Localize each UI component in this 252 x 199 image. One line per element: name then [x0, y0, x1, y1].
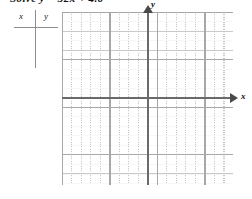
problem-statement: Solve y = 32x + 4.6 [10, 0, 190, 4]
table-column-divider [35, 10, 36, 68]
x-axis-arrow-icon [230, 93, 238, 103]
table-header-row: x y [14, 10, 58, 26]
coordinate-plane[interactable]: x y [62, 12, 233, 185]
table-header-y: y [44, 11, 48, 21]
y-axis-label: y [151, 0, 155, 9]
table-header-rule [14, 27, 58, 28]
y-axis-line [147, 12, 149, 185]
xy-value-table: x y [14, 10, 58, 68]
table-header-x: x [19, 11, 23, 21]
x-axis-label: x [241, 91, 246, 101]
